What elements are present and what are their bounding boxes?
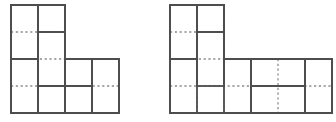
figure-canvas <box>0 0 336 122</box>
